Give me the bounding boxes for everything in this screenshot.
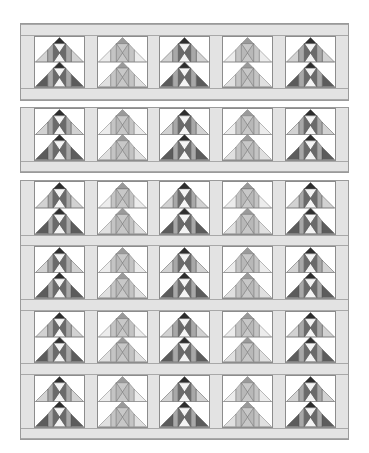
- quilt-block-dark: [34, 311, 85, 363]
- quilt-block-light: [97, 246, 148, 299]
- sashing-strip: [21, 299, 348, 311]
- quilt-panel-2: [20, 107, 349, 173]
- quilt-panel-3: [20, 180, 349, 440]
- quilt-block-light: [222, 181, 273, 235]
- sashing-strip-bottom: [21, 428, 348, 439]
- quilt-block-dark: [285, 375, 336, 428]
- quilt-block-dark: [34, 181, 85, 235]
- quilt-block-dark: [285, 311, 336, 363]
- quilt-block-light: [222, 36, 273, 88]
- sashing-strip-top: [21, 24, 348, 36]
- sashing-strip: [21, 363, 348, 375]
- quilt-block-light: [97, 375, 148, 428]
- quilt-block-light: [97, 108, 148, 161]
- quilt-block-dark: [159, 108, 210, 161]
- quilt-block-light: [97, 311, 148, 363]
- quilt-block-light: [97, 36, 148, 88]
- quilt-block-dark: [159, 36, 210, 88]
- quilt-block-dark: [34, 36, 85, 88]
- quilt-block-dark: [34, 246, 85, 299]
- sashing-strip-bottom: [21, 88, 348, 100]
- quilt-block-light: [222, 311, 273, 363]
- quilt-block-dark: [285, 246, 336, 299]
- quilt-block-light: [97, 181, 148, 235]
- quilt-block-dark: [34, 375, 85, 428]
- sashing-strip: [21, 235, 348, 246]
- quilt-block-light: [222, 375, 273, 428]
- quilt-block-dark: [34, 108, 85, 161]
- quilt-block-dark: [285, 181, 336, 235]
- sashing-strip-bottom: [21, 161, 348, 172]
- quilt-block-dark: [159, 375, 210, 428]
- quilt-block-light: [222, 246, 273, 299]
- quilt-block-dark: [285, 36, 336, 88]
- quilt-panel-1: [20, 23, 349, 101]
- quilt-block-light: [222, 108, 273, 161]
- quilt-block-dark: [159, 311, 210, 363]
- quilt-block-dark: [159, 246, 210, 299]
- quilt-block-dark: [285, 108, 336, 161]
- quilt-block-dark: [159, 181, 210, 235]
